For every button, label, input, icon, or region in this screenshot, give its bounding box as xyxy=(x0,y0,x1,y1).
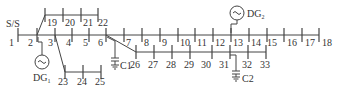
bus-10-label: 10 xyxy=(180,37,190,48)
bus-8-label: 8 xyxy=(144,37,149,48)
bus-6-label: 6 xyxy=(98,37,103,48)
bus-30-label: 30 xyxy=(201,59,211,70)
bus-13-label: 13 xyxy=(233,37,243,48)
bus-21-label: 21 xyxy=(83,17,93,28)
bus-7-label: 7 xyxy=(126,37,131,48)
bus-32-label: 32 xyxy=(242,59,252,70)
dg1-connector xyxy=(38,37,42,55)
bus-29-label: 29 xyxy=(184,59,194,70)
bus-24-label: 24 xyxy=(77,76,87,87)
bus-19-label: 19 xyxy=(47,17,57,28)
bus-11-label: 11 xyxy=(197,37,207,48)
branch-3-23 xyxy=(55,35,65,72)
dg1-label: DG1 xyxy=(33,72,50,84)
dg2-label: DG2 xyxy=(247,8,264,20)
branch-6-26 xyxy=(106,35,136,52)
bus-17-label: 17 xyxy=(305,37,315,48)
c2-connector xyxy=(230,55,236,71)
bus-2-label: 2 xyxy=(28,37,33,48)
substation-label: S/S xyxy=(6,18,20,29)
bus-9-label: 9 xyxy=(162,37,167,48)
bus-20-label: 20 xyxy=(65,17,75,28)
bus-14-label: 14 xyxy=(251,37,261,48)
bus-12-label: 12 xyxy=(215,37,225,48)
bus-33-label: 33 xyxy=(260,59,270,70)
bus-15-label: 15 xyxy=(267,37,277,48)
bus-3-label: 3 xyxy=(48,37,53,48)
bus-4-label: 4 xyxy=(66,37,71,48)
bus-1-label: 1 xyxy=(9,37,14,48)
c1-label: C1 xyxy=(120,60,132,71)
bus-25-label: 25 xyxy=(95,76,105,87)
bus-28-label: 28 xyxy=(166,59,176,70)
branch-2-19 xyxy=(37,15,45,35)
dg1-sine-icon xyxy=(38,61,46,64)
dg2-sine-icon xyxy=(233,12,241,15)
bus-31-label: 31 xyxy=(219,59,229,70)
bus-23-label: 23 xyxy=(58,76,68,87)
distribution-network-diagram: S/S 123456789101112131415161718192021222… xyxy=(0,0,337,94)
bus-5-label: 5 xyxy=(83,37,88,48)
c1-connector xyxy=(107,37,115,58)
bus-16-label: 16 xyxy=(287,37,297,48)
c2-label: C2 xyxy=(242,73,254,84)
bus-18-label: 18 xyxy=(322,37,332,48)
bus-22-label: 22 xyxy=(98,17,108,28)
dg2-connector xyxy=(231,20,237,33)
bus-27-label: 27 xyxy=(148,59,158,70)
